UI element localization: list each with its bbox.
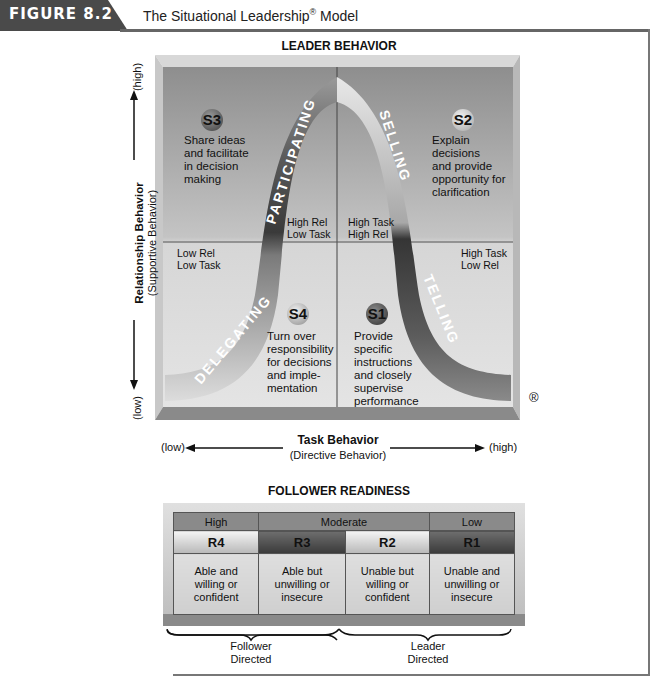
- bracket-line: Directed: [206, 653, 296, 666]
- corner-line: Low Rel: [177, 247, 221, 259]
- desc-r2: Unable butwilling orconfident: [345, 554, 429, 615]
- figure-title: The Situational Leadership® Model: [143, 7, 358, 24]
- corner-line: Low Task: [177, 259, 221, 271]
- s4-line: for decisions: [267, 356, 333, 369]
- s2-line: Explain: [432, 134, 506, 147]
- s4-line: mentation: [267, 382, 333, 395]
- s3-line: in decision: [184, 160, 249, 173]
- s2-line: decisions: [432, 147, 506, 160]
- corner-line: Low Task: [287, 228, 331, 240]
- s3-description: Share ideas and facilitate in decision m…: [184, 134, 249, 186]
- bracket-line: Leader: [383, 640, 473, 653]
- readiness-table: High Moderate Low R4 R3 R2 R1 Able andwi…: [173, 512, 515, 615]
- y-axis-subtitle: (Supportive Behavior): [146, 190, 158, 296]
- desc-r4: Able andwilling orconfident: [174, 554, 259, 615]
- s1-line: Provide: [354, 330, 419, 343]
- x-axis-low: (low): [161, 441, 185, 453]
- figure-number: FIGURE 8.2: [9, 5, 113, 23]
- y-axis-high: (high): [131, 63, 143, 91]
- bracket-line: Follower: [206, 640, 296, 653]
- s3-line: and facilitate: [184, 147, 249, 160]
- desc-line: unwilling or: [259, 578, 345, 591]
- corner-line: High Rel: [287, 216, 331, 228]
- s3-line: Share ideas: [184, 134, 249, 147]
- code-r4: R4: [174, 531, 259, 554]
- s1-line: performance: [354, 395, 419, 408]
- level-moderate: Moderate: [259, 513, 429, 531]
- follower-readiness-title: FOLLOWER READINESS: [165, 484, 513, 498]
- s4-line: Turn over: [267, 330, 333, 343]
- leader-directed-label: Leader Directed: [383, 640, 473, 666]
- corner-low-rel-low-task: Low Rel Low Task: [177, 247, 221, 271]
- panel-bevel-right: [513, 55, 520, 420]
- s2-line: opportunity for: [432, 173, 506, 186]
- level-low: Low: [429, 513, 514, 531]
- follower-directed-label: Follower Directed: [206, 640, 296, 666]
- x-axis-title: Task Behavior: [288, 433, 388, 447]
- code-r2: R2: [345, 531, 429, 554]
- s1-line: specific: [354, 343, 419, 356]
- bracket-line: Directed: [383, 653, 473, 666]
- registered-mark-chart: ®: [529, 390, 539, 405]
- code-r1: R1: [429, 531, 514, 554]
- badge-s3: S3: [201, 109, 223, 131]
- desc-line: unwilling or: [430, 578, 514, 591]
- corner-high-task-low-rel: High Task Low Rel: [461, 247, 507, 271]
- arrow-right-icon: [475, 444, 485, 452]
- s2-line: clarification: [432, 186, 506, 199]
- arrow-down-icon: [130, 380, 138, 390]
- s4-description: Turn over responsibility for decisions a…: [267, 330, 333, 395]
- corner-line: Low Rel: [461, 259, 507, 271]
- desc-line: willing or: [174, 578, 258, 591]
- figure-number-tab: FIGURE 8.2: [0, 0, 130, 31]
- readiness-panel-bottom-bevel: [163, 614, 525, 626]
- s1-line: and closely: [354, 369, 419, 382]
- figure-title-suffix: Model: [316, 8, 358, 24]
- s2-line: and provide: [432, 160, 506, 173]
- figure-title-text: The Situational Leadership: [143, 8, 310, 24]
- corner-high-task-high-rel: High Task High Rel: [348, 216, 394, 240]
- s2-description: Explain decisions and provide opportunit…: [432, 134, 506, 199]
- desc-line: insecure: [259, 591, 345, 604]
- badge-s1: S1: [366, 303, 388, 325]
- x-axis-high: (high): [489, 441, 517, 453]
- desc-line: Able and: [174, 565, 258, 578]
- brace-leader-directed: [339, 629, 511, 640]
- s1-line: supervise: [354, 382, 419, 395]
- s4-line: responsibility: [267, 343, 333, 356]
- desc-line: confident: [346, 591, 429, 604]
- y-axis-title: Relationship Behavior: [133, 182, 145, 303]
- frame-bottom-border: [173, 674, 650, 676]
- panel-bevel-top: [155, 55, 520, 67]
- desc-line: willing or: [346, 578, 429, 591]
- frame-right-border: [648, 29, 650, 676]
- level-high: High: [174, 513, 259, 531]
- desc-line: Able but: [259, 565, 345, 578]
- corner-line: High Task: [461, 247, 507, 259]
- s1-description: Provide specific instructions and closel…: [354, 330, 419, 408]
- desc-line: insecure: [430, 591, 514, 604]
- desc-r3: Able butunwilling orinsecure: [259, 554, 346, 615]
- panel-bevel-bottom: [155, 407, 520, 420]
- s4-line: and imple-: [267, 369, 333, 382]
- corner-line: High Task: [348, 216, 394, 228]
- arrow-up-icon: [130, 90, 138, 100]
- corner-line: High Rel: [348, 228, 394, 240]
- corner-high-rel-low-task: High Rel Low Task: [287, 216, 331, 240]
- badge-s4: S4: [287, 303, 309, 325]
- s3-line: making: [184, 173, 249, 186]
- leader-behavior-title: LEADER BEHAVIOR: [165, 39, 513, 53]
- desc-line: Unable and: [430, 565, 514, 578]
- y-axis-low: (low): [131, 396, 143, 420]
- code-r3: R3: [259, 531, 346, 554]
- desc-line: confident: [174, 591, 258, 604]
- desc-line: Unable but: [346, 565, 429, 578]
- x-axis-subtitle: (Directive Behavior): [278, 449, 398, 461]
- brace-follower-directed: [167, 629, 339, 640]
- frame-top-border: [120, 29, 650, 32]
- badge-s2: S2: [452, 109, 474, 131]
- s1-line: instructions: [354, 356, 419, 369]
- desc-r1: Unable andunwilling orinsecure: [429, 554, 514, 615]
